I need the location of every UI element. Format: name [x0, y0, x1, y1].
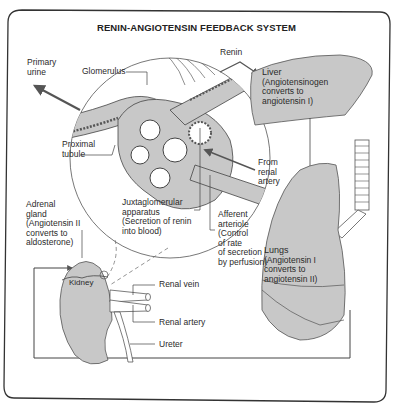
label-kidney: Kidney — [69, 278, 93, 288]
label-line: angiotensin I) — [262, 97, 328, 107]
label-lungs: Lungs (Angiotensin I converts to angiote… — [264, 246, 317, 284]
label-afferent-arteriole: Afferent arteriole (Control of rate of s… — [218, 210, 267, 267]
label-line: aldosterone) — [26, 238, 80, 248]
label-line: into blood) — [122, 227, 191, 237]
label-adrenal-gland: Adrenal gland (Angiotensin II converts t… — [26, 200, 80, 248]
label-line: urine — [27, 68, 56, 78]
primary-urine-arrow — [35, 86, 80, 110]
label-ureter: Ureter — [159, 340, 183, 350]
label-renal-artery: Renal artery — [159, 318, 205, 328]
label-primary-urine: Primary urine — [27, 58, 56, 77]
label-renal-vein: Renal vein — [159, 280, 199, 290]
label-proximal-tubule: Proximal tubule — [62, 140, 95, 159]
label-line: artery — [258, 177, 280, 187]
label-line: tubule — [62, 150, 95, 160]
label-liver: Liver (Angiotensinogen converts to angio… — [262, 68, 328, 106]
label-glomerulus: Glomerulus — [82, 67, 125, 77]
diagram-title: RENIN-ANGIOTENSIN FEEDBACK SYSTEM — [0, 22, 393, 33]
label-line: angiotensin II) — [264, 275, 317, 285]
label-renin: Renin — [220, 48, 242, 58]
label-line: by perfusion) — [218, 258, 267, 268]
label-from-renal-artery: From renal artery — [258, 158, 280, 187]
magnify-line — [105, 240, 116, 280]
label-juxtaglomerular: Juxtaglomerular apparatus (Secretion of … — [122, 198, 191, 236]
